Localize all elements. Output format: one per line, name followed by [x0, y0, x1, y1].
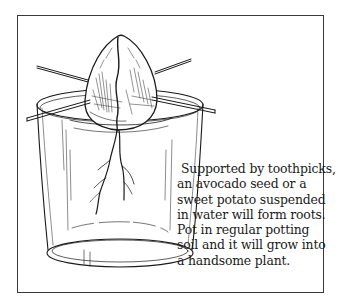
- figure-caption: Supported by toothpicks, an avocado seed…: [177, 161, 327, 268]
- roots-icon: [90, 130, 134, 214]
- caption-line: sweet potato suspended: [177, 192, 327, 207]
- caption-line: Supported by toothpicks,: [177, 161, 327, 176]
- avocado-seed-icon: [85, 35, 157, 131]
- caption-line: Pot in regular potting: [177, 222, 327, 237]
- caption-line: in water will form roots.: [177, 207, 327, 222]
- caption-line: a handsome plant.: [177, 253, 327, 268]
- caption-line: an avocado seed or a: [177, 176, 327, 191]
- caption-line: soil and it will grow into: [177, 237, 327, 252]
